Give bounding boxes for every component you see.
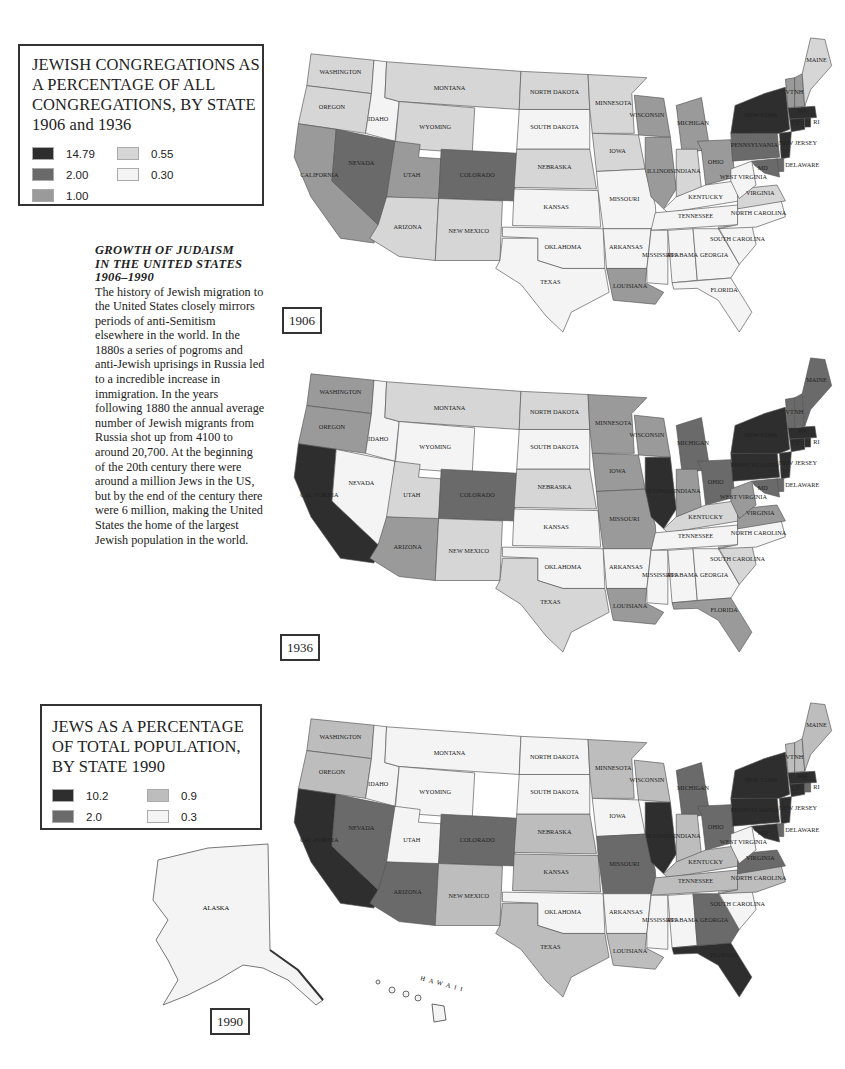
state-label-md: MD — [758, 485, 769, 491]
state-me — [802, 703, 831, 771]
state-label-nj: NEW JERSEY — [779, 460, 818, 466]
state-label-sc: SOUTH CAROLINA — [710, 556, 766, 562]
state-label-pa: PENNSYLVANIA — [731, 462, 779, 468]
state-label-sd: SOUTH DAKOTA — [530, 789, 579, 795]
state-label-ok: OKLAHOMA — [545, 564, 582, 570]
state-label-mi: MICHIGAN — [677, 786, 710, 792]
year-label-1906: 1906 — [282, 307, 322, 334]
state-label-ga: GEORGIA — [700, 917, 729, 923]
swatch — [147, 789, 169, 802]
state-label-vt: VT — [785, 89, 794, 95]
state-label-wa: WASHINGTON — [319, 389, 361, 395]
state-label-az: ARIZONA — [393, 224, 422, 230]
swatch — [32, 147, 54, 160]
state-label-pa: PENNSYLVANIA — [731, 807, 779, 813]
state-label-wa: WASHINGTON — [319, 734, 361, 740]
state-label-nm: NEW MEXICO — [449, 893, 490, 899]
state-label-me: MAINE — [806, 722, 827, 728]
state-label-nj: NEW JERSEY — [779, 805, 818, 811]
state-label-sd: SOUTH DAKOTA — [530, 444, 579, 450]
state-label-ne: NEBRASKA — [538, 164, 572, 170]
state-label-ks: KANSAS — [544, 204, 570, 210]
state-label-ma: MA — [797, 428, 808, 434]
swatch — [52, 810, 74, 823]
alaska-label: ALASKA — [203, 904, 230, 911]
swatch — [117, 147, 139, 160]
state-fl — [672, 943, 752, 997]
state-label-wv: WEST VIRGINIA — [720, 175, 768, 181]
state-label-ri: RI — [813, 784, 819, 790]
state-label-tx: TEXAS — [540, 599, 561, 605]
state-ri — [805, 117, 811, 127]
state-label-pa: PENNSYLVANIA — [731, 142, 779, 148]
state-label-mt: MONTANA — [434, 405, 466, 411]
state-label-nh: NH — [794, 409, 804, 415]
state-label-vt: VT — [785, 409, 794, 415]
state-label-ny: NEW YORK — [744, 113, 778, 119]
state-label-ct: CT — [791, 786, 799, 792]
state-label-ca: CALIFORNIA — [300, 492, 339, 498]
legend-swatches: 10.2 0.9 2.0 0.3 — [52, 789, 260, 823]
state-label-de: DELAWARE — [785, 162, 819, 168]
state-label-sc: SOUTH CAROLINA — [710, 236, 766, 242]
state-label-oh: OHIO — [708, 159, 724, 165]
legend-swatches: 14.79 0.55 2.00 0.30 1.00 — [32, 147, 262, 202]
state-label-wv: WEST VIRGINIA — [720, 840, 768, 846]
state-label-va: VIRGINIA — [746, 190, 775, 196]
state-label-ca: CALIFORNIA — [300, 172, 339, 178]
state-label-or: OREGON — [319, 105, 346, 111]
state-label-oh: OHIO — [708, 479, 724, 485]
state-label-il: ILLINOIS — [647, 488, 674, 494]
state-label-al: ALABAMA — [666, 917, 698, 923]
state-ny — [731, 407, 790, 453]
state-label-nv: NEVADA — [348, 160, 374, 166]
legend-item: 14.79 — [32, 147, 117, 160]
state-label-ga: GEORGIA — [700, 572, 729, 578]
state-label-wy: WYOMING — [419, 124, 451, 130]
state-label-wi: WISCONSIN — [629, 433, 665, 439]
state-label-al: ALABAMA — [666, 252, 698, 258]
legend-item: 0.30 — [117, 168, 202, 181]
essay: GROWTH OF JUDAISM IN THE UNITED STATES 1… — [95, 244, 265, 547]
state-fl — [672, 278, 752, 332]
state-label-nd: NORTH DAKOTA — [530, 409, 580, 415]
legend-item: 2.00 — [32, 168, 117, 181]
state-label-ma: MA — [797, 108, 808, 114]
state-label-ri: RI — [813, 439, 819, 445]
state-label-ar: ARKANSAS — [609, 244, 644, 250]
state-label-mo: MISSOURI — [609, 196, 639, 202]
state-label-wy: WYOMING — [419, 789, 451, 795]
state-label-co: COLORADO — [460, 172, 496, 178]
state-label-co: COLORADO — [460, 492, 496, 498]
state-label-ut: UTAH — [403, 492, 421, 498]
state-ri — [805, 437, 811, 447]
state-label-ut: UTAH — [403, 837, 421, 843]
state-label-tn: TENNESSEE — [678, 214, 714, 220]
state-label-mo: MISSOURI — [609, 516, 639, 522]
legend-item: 2.0 — [52, 810, 147, 823]
state-label-sc: SOUTH CAROLINA — [710, 901, 766, 907]
state-label-ky: KENTUCKY — [688, 514, 723, 520]
state-label-in: INDIANA — [674, 168, 701, 174]
state-label-il: ILLINOIS — [647, 833, 674, 839]
state-label-ny: NEW YORK — [744, 433, 778, 439]
legend-item: 0.3 — [147, 810, 232, 823]
legend-congregations: JEWISH CONGREGATIONS AS A PERCENTAGE OF … — [18, 44, 264, 206]
state-label-oh: OHIO — [708, 824, 724, 830]
legend-title: JEWISH CONGREGATIONS AS A PERCENTAGE OF … — [32, 55, 262, 135]
state-label-wi: WISCONSIN — [629, 113, 665, 119]
state-label-co: COLORADO — [460, 837, 496, 843]
hawaii-label: HAWAII — [420, 974, 468, 993]
map-1936: WASHINGTONOREGONCALIFORNIAIDAHONEVADAMON… — [290, 350, 840, 660]
state-label-fl: FLORIDA — [710, 952, 738, 958]
state-label-ne: NEBRASKA — [538, 829, 572, 835]
state-label-nj: NEW JERSEY — [779, 140, 818, 146]
state-label-de: DELAWARE — [785, 482, 819, 488]
state-label-nd: NORTH DAKOTA — [530, 89, 580, 95]
map-1990: WASHINGTONOREGONCALIFORNIAIDAHONEVADAMON… — [290, 695, 840, 1005]
state-label-ct: CT — [791, 441, 799, 447]
state-label-wi: WISCONSIN — [629, 778, 665, 784]
state-label-az: ARIZONA — [393, 544, 422, 550]
swatch — [147, 810, 169, 823]
state-label-fl: FLORIDA — [710, 607, 738, 613]
